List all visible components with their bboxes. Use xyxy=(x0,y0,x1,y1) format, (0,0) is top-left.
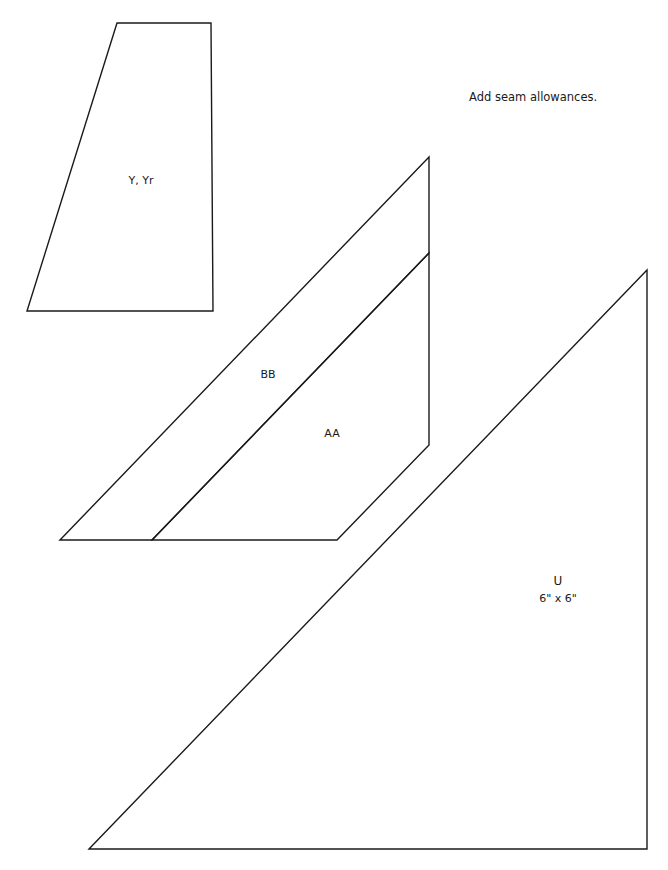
piece-u-outline xyxy=(89,270,647,849)
piece-y-outline xyxy=(27,23,213,311)
piece-u-size: 6" x 6" xyxy=(539,592,577,605)
seam-allowance-note: Add seam allowances. xyxy=(469,90,597,104)
piece-aa-label: AA xyxy=(324,427,339,440)
piece-bb-outline xyxy=(60,157,429,540)
piece-u-label: U xyxy=(554,574,563,588)
piece-y-label: Y, Yr xyxy=(129,174,154,187)
piece-bb-label: BB xyxy=(260,368,275,381)
piece-aa-outline xyxy=(152,253,429,540)
